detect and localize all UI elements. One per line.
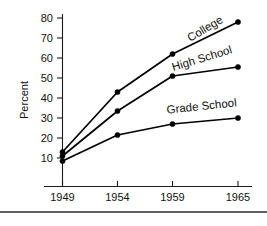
series-grade-school-point-1965 (235, 115, 240, 120)
series-college-line (63, 22, 239, 152)
series-grade-school-point-1954 (115, 132, 120, 137)
series-college-point-1954 (115, 89, 120, 94)
y-tick-label-80: 80 (41, 12, 53, 24)
series-high-school (60, 64, 241, 158)
y-tick-label-50: 50 (41, 72, 53, 84)
series-grade-school-point-1959 (170, 121, 175, 126)
y-tick-label-70: 70 (41, 32, 53, 44)
y-tick-label-30: 30 (41, 112, 53, 124)
series-college (60, 19, 241, 154)
series-label-college: College (185, 13, 225, 43)
series-grade-school (60, 115, 241, 163)
y-tick-label-60: 60 (41, 52, 53, 64)
series-high-school-line (63, 67, 239, 156)
series-high-school-point-1965 (235, 64, 240, 69)
series-high-school-point-1949 (60, 153, 65, 158)
x-tick-labels: 1949 1954 1959 1965 (50, 191, 250, 203)
y-axis-title: Percent (18, 81, 30, 119)
y-tick-label-10: 10 (41, 152, 53, 164)
series-high-school-point-1959 (170, 73, 175, 78)
x-tick-label-1959: 1959 (160, 191, 184, 203)
x-tick-label-1954: 1954 (105, 191, 129, 203)
y-tick-label-40: 40 (41, 92, 53, 104)
line-chart: 80 70 60 50 40 30 20 10 Percent 1949 195… (0, 0, 267, 226)
series-grade-school-point-1949 (60, 158, 65, 163)
chart-figure: 80 70 60 50 40 30 20 10 Percent 1949 195… (0, 0, 267, 226)
series-college-point-1965 (235, 19, 240, 24)
x-axis (44, 181, 252, 187)
series-college-point-1959 (170, 51, 175, 56)
y-tick-labels: 80 70 60 50 40 30 20 10 (41, 12, 53, 164)
series-high-school-point-1954 (115, 108, 120, 113)
x-tick-label-1949: 1949 (50, 191, 74, 203)
x-tick-label-1965: 1965 (226, 191, 250, 203)
y-tick-label-20: 20 (41, 132, 53, 144)
series-label-grade-school: Grade School (166, 96, 237, 115)
